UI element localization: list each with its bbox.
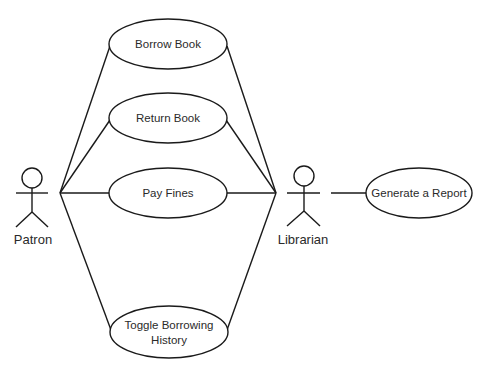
assoc-librarian-toggle	[227, 193, 276, 330]
patron-associations	[60, 46, 111, 330]
assoc-patron-toggle	[60, 193, 111, 330]
stick-figure-icon	[287, 166, 320, 226]
use-case-return-book[interactable]: Return Book	[109, 93, 227, 143]
use-case-pay-fines[interactable]: Pay Fines	[109, 168, 227, 218]
assoc-librarian-return	[226, 120, 276, 193]
stick-figure-icon	[16, 168, 48, 227]
use-case-label: Pay Fines	[142, 187, 193, 199]
actor-label: Librarian	[278, 232, 329, 247]
use-case-label-line2: History	[151, 334, 187, 346]
actor-librarian[interactable]: Librarian	[278, 166, 329, 247]
assoc-patron-return	[60, 120, 110, 193]
use-case-borrow-book[interactable]: Borrow Book	[109, 19, 227, 69]
librarian-associations	[226, 46, 366, 330]
assoc-patron-borrow	[60, 46, 110, 193]
use-case-label-line1: Toggle Borrowing	[125, 319, 214, 331]
actor-patron[interactable]: Patron	[14, 168, 52, 247]
use-case-generate-report[interactable]: Generate a Report	[366, 168, 472, 218]
use-case-label: Return Book	[136, 112, 200, 124]
actor-label: Patron	[14, 232, 52, 247]
assoc-librarian-borrow	[227, 46, 276, 193]
use-case-label: Borrow Book	[135, 38, 201, 50]
use-case-label: Generate a Report	[371, 187, 467, 199]
use-case-toggle-borrowing-history[interactable]: Toggle Borrowing History	[110, 306, 228, 358]
use-case-diagram: Borrow Book Return Book Pay Fines Toggle…	[0, 0, 498, 374]
